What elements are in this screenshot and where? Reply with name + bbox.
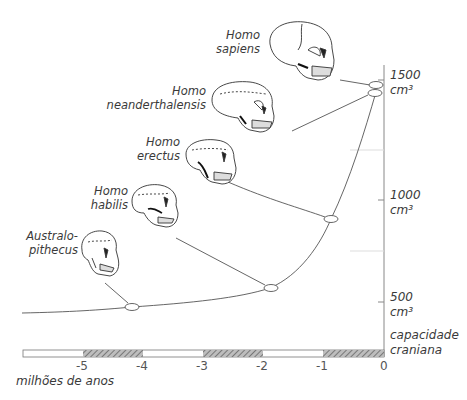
label-line1: Homo — [70, 184, 128, 198]
point-homo-neanderthalensis — [368, 90, 382, 97]
xtick-minus4: -4 — [136, 359, 148, 373]
label-australopithecus: Australo- pithecus — [18, 229, 78, 257]
label-homo-sapiens: Homo sapiens — [200, 28, 260, 56]
y-axis-label-line2: craniana — [390, 343, 459, 358]
ytick-unit: cm³ — [390, 83, 421, 98]
skull-homo-erectus-icon — [186, 140, 236, 184]
y-axis-label-line1: capacidade — [390, 328, 459, 343]
x-axis-label: milhões de anos — [16, 374, 114, 389]
label-line2: habilis — [70, 198, 128, 212]
skull-homo-neanderthalensis-icon — [212, 82, 274, 132]
point-homo-sapiens — [369, 82, 383, 89]
label-line1: Homo — [200, 28, 260, 42]
skull-homo-sapiens-icon — [270, 22, 334, 80]
label-homo-habilis: Homo habilis — [70, 184, 128, 212]
ytick-value: 1500 — [390, 68, 421, 83]
point-homo-habilis — [264, 285, 278, 292]
label-line2: erectus — [120, 149, 180, 163]
xtick-minus3: -3 — [196, 359, 208, 373]
point-australopithecus — [125, 304, 139, 311]
skull-australopithecus-icon — [82, 231, 119, 276]
ytick-unit: cm³ — [390, 203, 421, 218]
ytick-value: 1000 — [390, 188, 421, 203]
label-line2: sapiens — [200, 42, 260, 56]
y-axis — [350, 65, 384, 357]
xtick-minus5: -5 — [76, 359, 88, 373]
ytick-1500: 1500 cm³ — [390, 68, 421, 98]
ytick-500: 500 cm³ — [390, 290, 413, 320]
label-line1: Homo — [120, 135, 180, 149]
label-homo-neanderthalensis: Homo neanderthalensis — [100, 84, 206, 112]
hominid-cranial-capacity-diagram: Australo- pithecus Homo habilis Homo ere… — [0, 0, 467, 400]
point-homo-erectus — [324, 216, 338, 223]
ytick-unit: cm³ — [390, 305, 413, 320]
ytick-value: 500 — [390, 290, 413, 305]
label-line2: neanderthalensis — [100, 98, 206, 112]
ytick-1000: 1000 cm³ — [390, 188, 421, 218]
skull-homo-habilis-icon — [132, 185, 178, 227]
xtick-minus1: -1 — [316, 359, 328, 373]
xtick-0: 0 — [380, 359, 388, 373]
label-homo-erectus: Homo erectus — [120, 135, 180, 163]
label-line1: Australo- — [18, 229, 78, 243]
xtick-minus2: -2 — [256, 359, 268, 373]
label-line1: Homo — [100, 84, 206, 98]
y-axis-label: capacidade craniana — [390, 328, 459, 358]
time-scale-bar — [23, 350, 384, 357]
label-line2: pithecus — [18, 243, 78, 257]
